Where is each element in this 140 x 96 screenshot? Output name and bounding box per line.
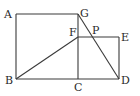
segment-bf [16,37,78,79]
label-p: P [92,24,100,37]
label-d: D [121,74,130,87]
label-b: B [5,74,13,87]
label-a: A [3,8,13,21]
geometry-diagram: A G F P E B C D [0,0,140,96]
label-e: E [121,31,129,44]
label-f: F [69,26,77,39]
label-g: G [80,7,89,20]
label-c: C [74,81,82,94]
